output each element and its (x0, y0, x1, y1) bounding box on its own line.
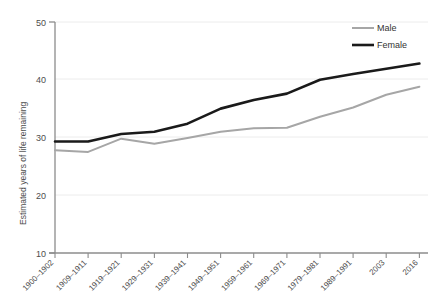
x-axis-label-11: 2016 (401, 258, 420, 277)
y-tick-label-20: 20 (36, 191, 46, 201)
y-tick-label-40: 40 (36, 75, 46, 85)
x-axis-labels: 1900–1902 1909–1911 1919–1921 1929–1931 … (21, 258, 420, 293)
y-tick-label-30: 30 (36, 133, 46, 143)
x-axis-ticks (55, 253, 419, 258)
x-axis-label-10: 2003 (368, 258, 387, 277)
series-line-male (55, 87, 419, 152)
x-axis-label-4: 1939–1941 (153, 258, 188, 293)
x-axis-label-9: 1989–1991 (319, 258, 354, 293)
y-axis-title: Estimated years of life remaining (18, 101, 28, 225)
chart-figure: 50 40 30 20 10 Estimated years of life r… (0, 0, 441, 303)
legend-label-male: Male (377, 23, 397, 33)
x-axis-label-6: 1959–1961 (219, 258, 254, 293)
y-axis-ticks (49, 22, 55, 253)
legend-label-female: Female (377, 40, 407, 50)
legend: Male Female (352, 23, 407, 50)
gridlines (55, 22, 428, 195)
x-axis-label-3: 1929–1931 (120, 258, 155, 293)
x-axis-label-0: 1900–1902 (21, 258, 56, 293)
x-axis-label-1: 1909–1911 (54, 258, 89, 293)
x-axis-label-7: 1969–1971 (253, 258, 288, 293)
life-expectancy-line-chart: 50 40 30 20 10 Estimated years of life r… (0, 0, 441, 303)
y-tick-label-50: 50 (36, 18, 46, 28)
x-axis-label-8: 1979–1981 (286, 258, 321, 293)
x-axis-label-2: 1919–1921 (87, 258, 122, 293)
x-axis-label-5: 1949–1951 (186, 258, 221, 293)
y-tick-label-10: 10 (36, 249, 46, 259)
